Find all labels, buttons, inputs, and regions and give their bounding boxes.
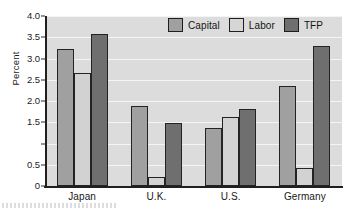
y-tick-label: 2.0 [27,96,40,106]
legend-swatch-tfp [284,18,299,32]
legend-label: Labor [249,20,275,31]
y-tick-mark [41,16,45,17]
bar-labor-germany [296,168,313,186]
legend-item-labor: Labor [229,18,275,32]
bar-labor-japan [74,73,91,186]
y-tick-label: 0.5 [27,160,40,170]
bar-capital-us [205,128,222,186]
bar-tfp-germany [313,46,330,186]
legend-item-tfp: TFP [284,18,323,32]
bar-group [45,16,119,186]
legend-swatch-labor [229,18,244,32]
x-tick-label-uk: U.K. [146,191,166,202]
plot-area [45,16,342,186]
x-tick-label-japan: Japan [68,191,96,202]
y-axis-tick-labels: 4.03.53.02.52.01.51.00.50 [14,16,40,186]
bar-tfp-japan [91,34,108,186]
y-tick-label: 3.0 [27,54,40,64]
y-tick-mark [41,143,45,144]
y-tick-mark [41,79,45,80]
y-tick-mark [41,164,45,165]
y-tick-mark [41,186,45,187]
y-axis-line [45,16,47,187]
y-tick-label: 4.0 [27,11,40,21]
bar-capital-germany [279,86,296,186]
x-axis-line [44,186,343,188]
y-tick-label: 1.5 [27,118,40,128]
legend-swatch-capital [168,18,183,32]
x-tick-label-germany: Germany [284,191,326,202]
bar-capital-japan [57,49,74,186]
legend-label: Capital [188,20,220,31]
bar-series-container [45,16,342,186]
legend-label: TFP [304,20,323,31]
legend-item-capital: Capital [168,18,220,32]
y-tick-mark [41,101,45,102]
bar-tfp-uk [165,123,182,186]
x-tick-label-us: U.S. [221,191,241,202]
chart-legend: CapitalLaborTFP [168,17,323,33]
y-tick-label: 2.5 [27,75,40,85]
bar-labor-us [222,117,239,186]
y-tick-label: 3.5 [27,33,40,43]
page-scan-artifact [2,203,117,208]
y-tick-mark [41,58,45,59]
bar-group [119,16,193,186]
y-tick-mark [41,122,45,123]
bar-capital-uk [131,106,148,186]
bar-group [194,16,268,186]
y-tick-mark [41,37,45,38]
bar-tfp-us [239,109,256,186]
y-tick-label: 0 [35,181,40,191]
bar-labor-uk [148,177,165,186]
bar-group [268,16,342,186]
bar-chart-figure: Percent 4.03.53.02.52.01.51.00.50 JapanU… [0,0,358,213]
